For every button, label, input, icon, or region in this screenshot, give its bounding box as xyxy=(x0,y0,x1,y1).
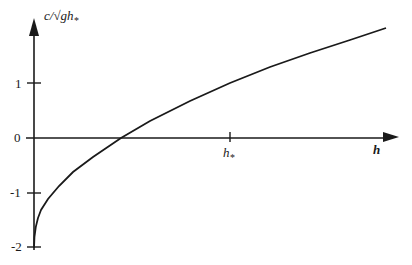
x-axis-arrow-icon xyxy=(383,132,399,142)
y-tick-label-m1: -1 xyxy=(10,186,21,199)
y-axis-label-text: c/√gh xyxy=(44,8,74,23)
h-star-subscript: * xyxy=(230,152,235,163)
x-tick-label-h-star: h* xyxy=(223,146,235,163)
y-tick-label-m2: -2 xyxy=(11,240,22,253)
plot-canvas xyxy=(0,0,412,265)
y-tick-label-0: 0 xyxy=(14,131,21,144)
y-axis-arrow-icon xyxy=(29,18,39,36)
y-axis-label: c/√gh* xyxy=(44,9,79,26)
y-axis-label-subscript: * xyxy=(74,15,79,26)
x-axis-label: h xyxy=(373,143,380,156)
y-tick-label-1: 1 xyxy=(15,77,22,90)
